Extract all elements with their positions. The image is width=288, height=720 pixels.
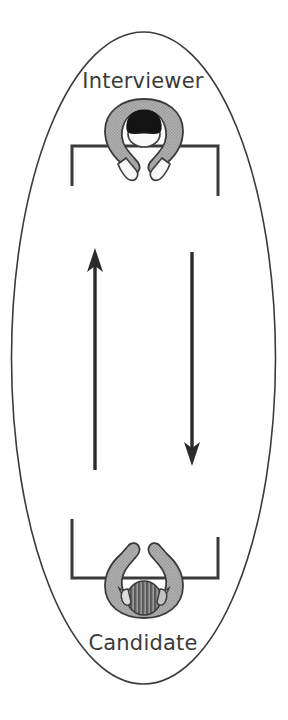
diagram-canvas: Interviewer Candidate <box>0 0 288 720</box>
candidate-head <box>127 581 161 615</box>
interview-room-diagram: Interviewer Candidate <box>0 0 288 720</box>
interviewer-label: Interviewer <box>82 69 204 93</box>
interviewer-hair-cap <box>129 110 159 132</box>
candidate-hair-strands <box>131 581 155 616</box>
candidate-label: Candidate <box>88 631 197 655</box>
